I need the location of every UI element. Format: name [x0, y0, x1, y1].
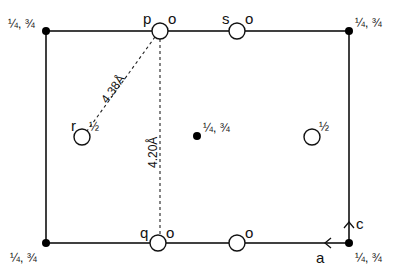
corner-label-top-left: ¼, ¾	[8, 17, 36, 31]
height-s: o	[245, 10, 253, 27]
label-p: p	[143, 10, 151, 27]
atom-s	[229, 23, 245, 39]
label-q: q	[140, 224, 148, 241]
corner-label-top-right: ¼, ¾	[355, 16, 383, 30]
atom-bottom-right-ring	[229, 235, 245, 251]
corner-atom-top-left	[42, 27, 50, 35]
corner-label-bottom-right: ¼, ¾	[355, 251, 383, 265]
corner-atom-bottom-right	[345, 239, 353, 247]
distance-label-vertical: 4.20Å	[145, 137, 160, 168]
axis-label-a: a	[316, 249, 325, 266]
atom-p	[152, 23, 168, 39]
axis-label-c: c	[356, 215, 364, 232]
corner-label-bottom-left: ¼, ¾	[10, 251, 38, 265]
label-r: r	[71, 117, 76, 134]
height-bottom-right-ring: o	[245, 224, 253, 241]
atom-right-mid	[304, 129, 320, 145]
corner-atom-top-right	[345, 27, 353, 35]
atom-r	[74, 129, 90, 145]
height-q: o	[166, 224, 174, 241]
unit-cell-diagram: ¼, ¾ ¼, ¾ ¼, ¾ ¼, ¾ ¼, ¾ p o s o q o o r…	[0, 0, 394, 274]
center-atom	[193, 132, 201, 140]
corner-atom-bottom-left	[42, 239, 50, 247]
label-s: s	[222, 10, 230, 27]
height-right-mid: ½	[319, 120, 329, 134]
atom-q	[150, 235, 166, 251]
height-r: ½	[89, 120, 99, 134]
height-p: o	[168, 10, 176, 27]
distance-label-diagonal: 4.38Å	[97, 72, 128, 106]
center-label: ¼, ¾	[203, 121, 231, 135]
